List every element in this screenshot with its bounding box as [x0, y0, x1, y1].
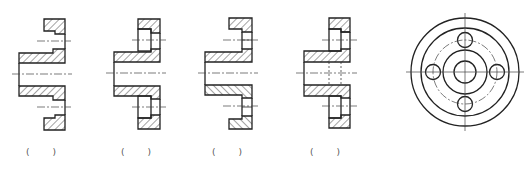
answer-label-2: ( )	[121, 147, 161, 157]
end-view	[406, 13, 524, 131]
answer-label-3: ( )	[212, 147, 252, 157]
section-view-1	[12, 19, 72, 130]
section-view-4	[296, 18, 357, 128]
flange-drawings	[0, 0, 530, 171]
section-view-2	[106, 19, 166, 129]
section-view-3	[198, 18, 258, 129]
answer-label-1: ( )	[26, 147, 66, 157]
answer-label-4: ( )	[310, 147, 350, 157]
